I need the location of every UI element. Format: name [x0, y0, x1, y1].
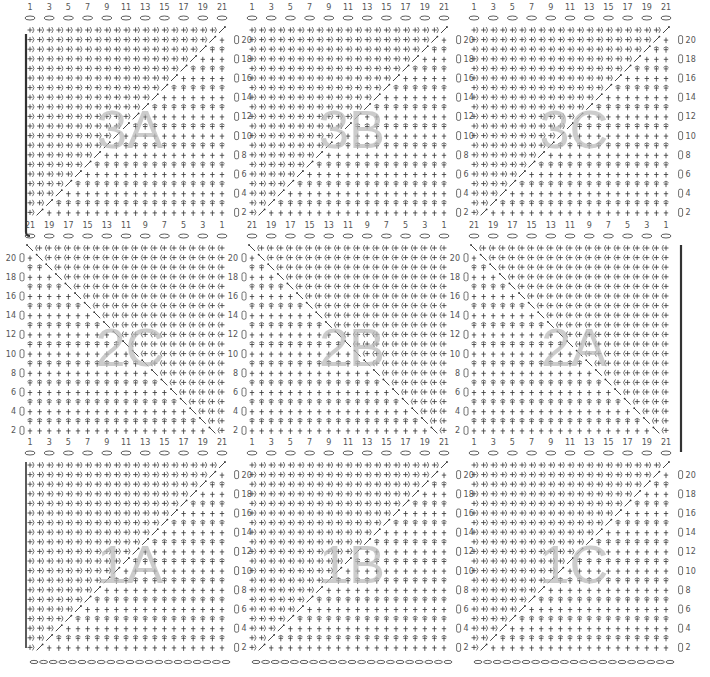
row-number: 20	[450, 254, 460, 263]
stitch-cap-icon	[217, 16, 227, 20]
chain-arc-icon	[90, 500, 92, 506]
diagonal-dot-icon	[417, 55, 419, 57]
column-number: 9	[587, 221, 592, 230]
chain-arc-icon	[534, 65, 536, 71]
chain-arc-icon	[218, 293, 220, 299]
chain-arc-icon	[505, 161, 507, 167]
chain-arc-icon	[61, 85, 63, 91]
chain-arc-icon	[662, 283, 664, 289]
diagonal-stitch-icon	[383, 379, 389, 385]
chain-arc-icon	[274, 587, 276, 593]
chain-arc-icon	[167, 491, 169, 497]
diagonal-dot-icon	[379, 93, 381, 95]
chain-arc-icon	[354, 303, 356, 309]
chain-arc-icon	[525, 587, 527, 593]
diagonal-stitch-icon	[383, 520, 389, 526]
chain-arc-icon	[52, 481, 54, 487]
chain-arc-icon	[129, 510, 131, 516]
chain-arc-icon	[573, 500, 575, 506]
chain-arc-icon	[71, 27, 73, 33]
chain-arc-icon	[33, 190, 35, 196]
row-number: 6	[686, 170, 691, 179]
chain-arc-icon	[274, 65, 276, 71]
chain-arc-icon	[42, 142, 44, 148]
chain-arc-icon	[399, 472, 401, 478]
row-number: 18	[464, 55, 474, 64]
chain-arc-icon	[129, 472, 131, 478]
turning-chain-icon	[235, 471, 239, 479]
chain-arc-icon	[74, 245, 76, 251]
stitch-cap-icon	[159, 16, 169, 20]
diagonal-dot-icon	[26, 244, 28, 246]
chain-arc-icon	[196, 37, 198, 43]
chain-arc-icon	[537, 293, 539, 299]
chain-arc-icon	[264, 104, 266, 110]
chain-arc-icon	[373, 283, 375, 289]
chain-arc-icon	[486, 481, 488, 487]
chain-arc-icon	[515, 548, 517, 554]
turning-chain-icon	[464, 330, 468, 338]
chain-arc-icon	[477, 200, 479, 206]
chain-arc-icon	[360, 520, 362, 526]
chain-arc-icon	[52, 161, 54, 167]
chain-arc-icon	[430, 418, 432, 424]
chain-arc-icon	[553, 85, 555, 91]
foundation-chain-icon	[155, 660, 163, 663]
chain-arc-icon	[341, 85, 343, 91]
chain-arc-icon	[160, 293, 162, 299]
chain-arc-icon	[360, 37, 362, 43]
chain-arc-icon	[33, 596, 35, 602]
turning-chain-icon	[464, 254, 468, 262]
chain-arc-icon	[611, 510, 613, 516]
stitch-cap-icon	[420, 16, 430, 20]
chain-arc-icon	[614, 351, 616, 357]
chain-arc-icon	[505, 462, 507, 468]
stitch-cap-icon	[179, 451, 189, 455]
stitch-cap-icon	[343, 234, 353, 238]
chain-arc-icon	[90, 558, 92, 564]
turning-chain-icon	[235, 528, 239, 536]
turning-chain-icon	[242, 426, 246, 434]
diagonal-stitch-icon	[75, 606, 81, 612]
chain-arc-icon	[621, 500, 623, 506]
diagonal-dot-icon	[170, 388, 172, 390]
chain-arc-icon	[537, 264, 539, 270]
chain-arc-icon	[74, 264, 76, 270]
chain-arc-icon	[90, 113, 92, 119]
chain-arc-icon	[505, 500, 507, 506]
chain-arc-icon	[157, 75, 159, 81]
chain-arc-icon	[331, 481, 333, 487]
chain-arc-icon	[303, 558, 305, 564]
panel-label: 1B	[319, 534, 385, 594]
chain-arc-icon	[621, 37, 623, 43]
chain-arc-icon	[440, 293, 442, 299]
chain-arc-icon	[496, 142, 498, 148]
chain-arc-icon	[601, 491, 603, 497]
chain-arc-icon	[399, 56, 401, 62]
chain-arc-icon	[556, 283, 558, 289]
chain-arc-icon	[331, 27, 333, 33]
chain-arc-icon	[515, 171, 517, 177]
chain-arc-icon	[112, 303, 114, 309]
chain-arc-icon	[573, 56, 575, 62]
chain-arc-icon	[293, 104, 295, 110]
chain-arc-icon	[208, 351, 210, 357]
row-number: 10	[686, 132, 696, 141]
chain-arc-icon	[286, 274, 288, 280]
diagonal-stitch-icon	[297, 293, 303, 299]
chain-arc-icon	[160, 274, 162, 280]
chain-arc-icon	[52, 558, 54, 564]
chain-arc-icon	[331, 56, 333, 62]
chain-arc-icon	[215, 27, 217, 33]
chain-arc-icon	[354, 293, 356, 299]
chain-arc-icon	[430, 255, 432, 261]
chain-arc-icon	[170, 245, 172, 251]
diagonal-stitch-icon	[471, 245, 477, 251]
diagonal-dot-icon	[605, 379, 607, 381]
foundation-chain-icon	[281, 660, 289, 663]
column-number: 3	[47, 3, 52, 12]
stitch-cap-icon	[83, 234, 93, 238]
chain-arc-icon	[486, 596, 488, 602]
chain-arc-icon	[604, 264, 606, 270]
chain-arc-icon	[585, 303, 587, 309]
